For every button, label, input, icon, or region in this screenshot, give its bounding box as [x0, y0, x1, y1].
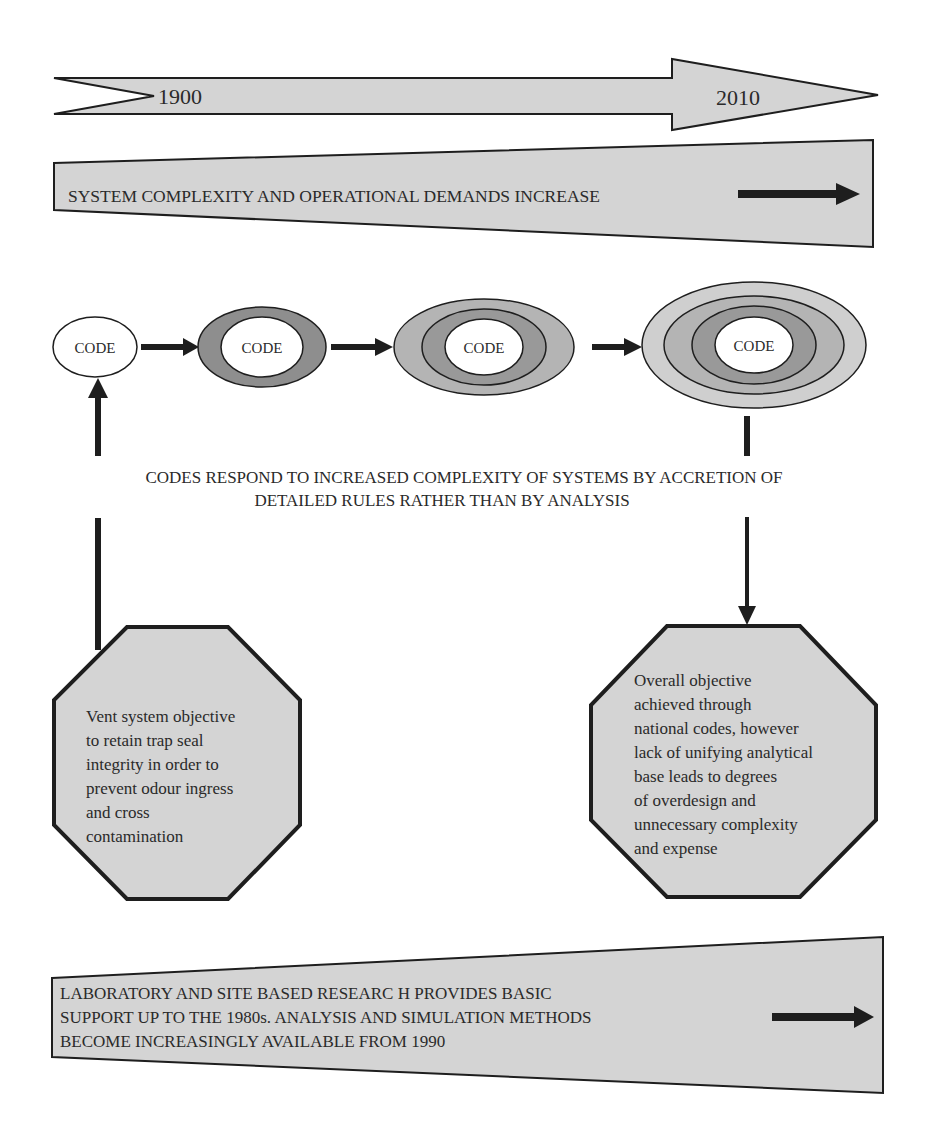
- middle-caption: CODES RESPOND TO INCREASED COMPLEXITY OF…: [145, 468, 782, 510]
- code-stage-4: CODE: [642, 282, 866, 408]
- code-label: CODE: [734, 338, 775, 354]
- code-stage-1: CODE: [53, 317, 137, 377]
- code-label: CODE: [464, 340, 505, 356]
- complexity-band: SYSTEM COMPLEXITY AND OPERATIONAL DEMAND…: [54, 140, 873, 247]
- timeline-start-label: 1900: [158, 84, 202, 109]
- stage-arrow-icon: [331, 338, 393, 356]
- down-arrow-icon: [738, 416, 756, 625]
- up-arrow-icon: [88, 378, 108, 650]
- research-band-line-1: LABORATORY AND SITE BASED RESEARC H PROV…: [60, 984, 552, 1003]
- diagram-canvas: 1900 2010 SYSTEM COMPLEXITY AND OPERATIO…: [0, 0, 929, 1147]
- research-band-line-3: BECOME INCREASINGLY AVAILABLE FROM 1990: [60, 1032, 445, 1051]
- timeline-end-label: 2010: [716, 85, 760, 110]
- code-label: CODE: [242, 340, 283, 356]
- left-octagon-text: Vent system objective to retain trap sea…: [86, 705, 235, 849]
- code-label: CODE: [75, 340, 116, 356]
- caption-line-1: CODES RESPOND TO INCREASED COMPLEXITY OF…: [145, 468, 782, 487]
- stage-arrow-icon: [592, 338, 642, 356]
- code-stage-3: CODE: [394, 299, 574, 395]
- right-octagon-text: Overall objective achieved through natio…: [634, 669, 813, 861]
- research-band: LABORATORY AND SITE BASED RESEARC H PROV…: [52, 937, 883, 1093]
- research-band-line-2: SUPPORT UP TO THE 1980s. ANALYSIS AND SI…: [60, 1008, 591, 1027]
- complexity-band-text: SYSTEM COMPLEXITY AND OPERATIONAL DEMAND…: [68, 186, 600, 206]
- timeline-arrow: 1900 2010: [54, 59, 878, 130]
- caption-line-2: DETAILED RULES RATHER THAN BY ANALYSIS: [254, 491, 629, 510]
- stage-arrow-icon: [141, 338, 199, 356]
- code-stage-2: CODE: [198, 307, 326, 387]
